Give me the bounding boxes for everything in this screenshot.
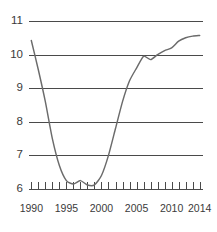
x-tick-label-2000: 2000 [90, 202, 114, 214]
x-tick-label-2014: 2014 [188, 202, 212, 214]
y-tick-label-9: 9 [17, 81, 23, 93]
x-tick-label-1990: 1990 [20, 202, 44, 214]
y-tick-label-6: 6 [17, 182, 23, 194]
data-series-group [31, 35, 199, 185]
gridlines-group [29, 22, 203, 190]
series-line-1 [31, 35, 199, 185]
x-tick-label-2010: 2010 [160, 202, 184, 214]
x-axis-tick-marks [32, 182, 201, 190]
chart-container: 11109876 199019952000200520102014 [0, 0, 217, 232]
y-tick-label-11: 11 [11, 14, 23, 26]
y-axis-tick-labels: 11109876 [10, 14, 23, 194]
x-axis-tick-labels: 199019952000200520102014 [20, 202, 212, 214]
y-tick-label-8: 8 [17, 115, 23, 127]
line-chart: 11109876 199019952000200520102014 [0, 0, 217, 232]
y-tick-label-7: 7 [17, 148, 23, 160]
x-tick-label-1995: 1995 [55, 202, 79, 214]
x-tick-label-2005: 2005 [125, 202, 149, 214]
y-tick-label-10: 10 [10, 48, 23, 60]
